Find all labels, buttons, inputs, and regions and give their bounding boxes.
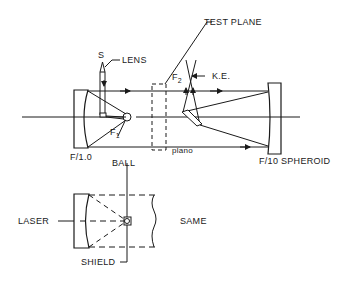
label-shield: SHIELD [81, 257, 115, 267]
label-focus1: F1 [110, 127, 120, 139]
label-plano: plano [172, 146, 193, 155]
primary-mirror [74, 90, 88, 148]
label-source: S [98, 50, 104, 60]
label-focus2: F2 [172, 72, 182, 84]
label-laser: LASER [18, 216, 49, 226]
label-lens: LENS [122, 55, 147, 65]
label-knife-edge: K.E. [212, 71, 230, 81]
label-same: SAME [180, 216, 207, 226]
label-ball: BALL [112, 158, 135, 168]
spheroid-mirror [268, 83, 281, 154]
label-spheroid: F/10 SPHEROID [259, 156, 330, 166]
optical-diagram [0, 0, 344, 284]
label-primary-mirror: F/1.0 [70, 152, 92, 162]
label-test-plane: TEST PLANE [204, 17, 262, 27]
